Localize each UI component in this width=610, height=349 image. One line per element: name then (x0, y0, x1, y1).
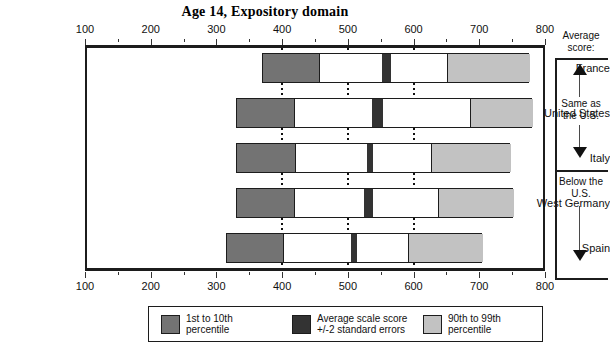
axis-tick-minor (184, 39, 185, 42)
axis-tick-label: 100 (76, 280, 94, 292)
axis-tick-minor (118, 272, 119, 275)
annotation-group2-line1: Below the (553, 176, 609, 188)
bar-west-germany (236, 188, 513, 218)
bar-france (262, 53, 529, 83)
axis-tick-major (85, 39, 86, 45)
axis-tick-minor (381, 272, 382, 275)
axis-tick-minor (249, 39, 250, 42)
annotation-rule-bottom (555, 278, 608, 280)
legend-swatch-1 (161, 315, 180, 334)
segment-1st-to-10th-percentile (263, 54, 320, 82)
axis-tick-minor (446, 272, 447, 275)
axis-tick-major (545, 272, 546, 278)
axis-tick-label: 400 (273, 23, 291, 35)
axis-tick-label: 600 (404, 280, 422, 292)
segment-90th-to-99th-percentile (431, 144, 511, 172)
bottom-axis-line (85, 269, 545, 271)
axis-tick-label: 600 (404, 23, 422, 35)
legend-label-2: Average scale score+/-2 standard errors (317, 313, 407, 335)
axis-tick-label: 800 (536, 280, 554, 292)
axis-tick-minor (118, 39, 119, 42)
segment-average-scale-score (351, 234, 357, 262)
arrow-shaft-up-group1 (579, 75, 580, 97)
annotation-group1-line1: Same as (553, 98, 609, 110)
arrow-down-icon-group2 (573, 250, 587, 261)
arrow-shaft-down-group1 (579, 125, 580, 147)
legend-item-3: 90th to 99thpercentile (411, 313, 542, 335)
axis-tick-major (479, 272, 480, 278)
annotation-header-line2: score: (553, 42, 609, 54)
axis-tick-label: 500 (339, 280, 357, 292)
chart-title: Age 14, Expository domain (0, 4, 530, 20)
segment-1st-to-10th-percentile (237, 189, 295, 217)
axis-tick-label: 300 (207, 280, 225, 292)
bar-united-states (236, 98, 532, 128)
axis-tick-minor (315, 39, 316, 42)
bar-italy (236, 143, 510, 173)
axis-tick-major (216, 272, 217, 278)
segment-90th-to-99th-percentile (447, 54, 530, 82)
axis-tick-major (348, 39, 349, 45)
arrow-shaft-down-group2 (579, 206, 580, 250)
segment-average-scale-score (372, 99, 383, 127)
axis-tick-major (216, 39, 217, 45)
legend-item-1: 1st to 10thpercentile (149, 313, 280, 335)
segment-1st-to-10th-percentile (227, 234, 284, 262)
top-axis-line (85, 45, 545, 47)
axis-tick-major (479, 39, 480, 45)
legend-swatch-2 (292, 315, 311, 334)
annotation-rule-middle (555, 170, 608, 172)
axis-tick-label: 100 (76, 23, 94, 35)
legend-label-line1: Average scale score (317, 313, 407, 324)
axis-tick-major (151, 39, 152, 45)
segment-90th-to-99th-percentile (470, 99, 532, 127)
axis-tick-minor (512, 39, 513, 42)
axis-tick-label: 700 (470, 280, 488, 292)
legend: 1st to 10thpercentileAverage scale score… (148, 306, 543, 342)
segment-1st-to-10th-percentile (237, 144, 296, 172)
legend-label-line2: +/-2 standard errors (317, 324, 407, 335)
axis-tick-minor (249, 272, 250, 275)
axis-tick-minor (512, 272, 513, 275)
legend-label-3: 90th to 99thpercentile (448, 313, 501, 335)
legend-label-1: 1st to 10thpercentile (186, 313, 233, 335)
legend-label-line2: percentile (186, 324, 233, 335)
segment-average-scale-score (367, 144, 374, 172)
segment-1st-to-10th-percentile (237, 99, 295, 127)
axis-tick-major (414, 39, 415, 45)
axis-tick-minor (184, 272, 185, 275)
segment-average-scale-score (382, 54, 391, 82)
axis-tick-major (348, 272, 349, 278)
axis-tick-label: 300 (207, 23, 225, 35)
legend-label-line2: percentile (448, 324, 501, 335)
axis-tick-major (85, 272, 86, 278)
annotation-header-line1: Average (553, 30, 609, 42)
arrow-down-icon-group1 (573, 147, 587, 158)
axis-tick-minor (315, 272, 316, 275)
axis-tick-label: 500 (339, 23, 357, 35)
legend-item-2: Average scale score+/-2 standard errors (280, 313, 411, 335)
legend-label-line1: 1st to 10th (186, 313, 233, 324)
average-score-annotation-panel: Average score: Same as the U.S. Below th… (553, 30, 610, 280)
axis-tick-label: 400 (273, 280, 291, 292)
axis-tick-major (545, 39, 546, 45)
legend-swatch-3 (423, 315, 442, 334)
segment-90th-to-99th-percentile (438, 189, 515, 217)
axis-tick-major (414, 272, 415, 278)
axis-tick-label: 800 (536, 23, 554, 35)
axis-tick-major (282, 272, 283, 278)
annotation-group2-line2: U.S. (553, 188, 609, 200)
axis-tick-label: 700 (470, 23, 488, 35)
axis-tick-minor (446, 39, 447, 42)
bar-spain (226, 233, 482, 263)
arrow-up-icon-group1 (573, 64, 587, 75)
axis-tick-label: 200 (142, 23, 160, 35)
segment-90th-to-99th-percentile (408, 234, 483, 262)
legend-label-line1: 90th to 99th (448, 313, 501, 324)
segment-average-scale-score (364, 189, 373, 217)
axis-tick-minor (381, 39, 382, 42)
annotation-rule-top (555, 58, 608, 60)
axis-tick-major (282, 39, 283, 45)
axis-tick-major (151, 272, 152, 278)
axis-tick-label: 200 (142, 280, 160, 292)
